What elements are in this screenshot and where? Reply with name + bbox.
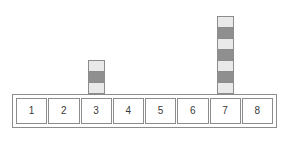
diagram-canvas: 12345678: [0, 0, 289, 141]
stack-block: [88, 82, 105, 94]
bucket-cell[interactable]: 7: [210, 98, 241, 124]
bucket-cell[interactable]: 2: [48, 98, 79, 124]
bucket-cell-label: 2: [61, 106, 67, 116]
bucket-cell-label: 4: [126, 106, 132, 116]
bucket-cell[interactable]: 1: [16, 98, 47, 124]
bucket-cell[interactable]: 6: [177, 98, 208, 124]
bucket-cell-label: 3: [93, 106, 99, 116]
stack-over-cell-7: [217, 16, 234, 94]
bucket-cell[interactable]: 3: [81, 98, 112, 124]
bucket-cell[interactable]: 4: [113, 98, 144, 124]
bucket-cell-label: 5: [158, 106, 164, 116]
bucket-cell[interactable]: 5: [145, 98, 176, 124]
bucket-cell-label: 7: [222, 106, 228, 116]
stack-over-cell-3: [88, 60, 105, 94]
bucket-cell[interactable]: 8: [242, 98, 273, 124]
bucket-cell-label: 6: [190, 106, 196, 116]
bucket-cell-label: 1: [29, 106, 35, 116]
stack-block: [217, 82, 234, 94]
bucket-cell-label: 8: [255, 106, 261, 116]
bucket-row: 12345678: [12, 94, 277, 128]
